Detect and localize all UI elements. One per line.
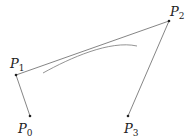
segment-p2-p3 [128, 21, 169, 116]
control-points [15, 20, 171, 118]
point-p0 [29, 115, 32, 118]
segment-p1-p2 [16, 21, 169, 75]
labels: P0 P1 P2 P3 [9, 4, 184, 138]
segment-p0-p1 [16, 75, 30, 116]
point-p1 [15, 74, 18, 77]
bezier-diagram: P0 P1 P2 P3 [0, 0, 189, 140]
control-polygon [16, 21, 169, 116]
point-p2 [168, 20, 171, 23]
label-p3: P3 [123, 121, 139, 138]
label-p1: P1 [9, 56, 24, 73]
label-p0: P0 [17, 121, 33, 138]
point-p3 [127, 115, 130, 118]
label-p2: P2 [169, 4, 184, 21]
